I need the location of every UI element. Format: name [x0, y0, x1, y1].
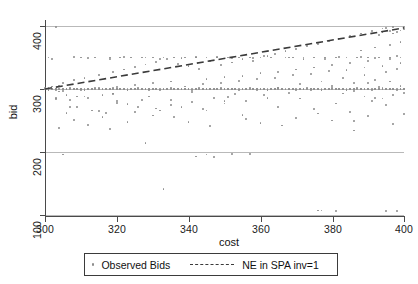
data-point [317, 113, 319, 115]
data-point [313, 88, 315, 90]
data-point [360, 50, 362, 52]
scatter-points-layer [45, 26, 404, 216]
data-point [349, 88, 351, 90]
data-point [360, 88, 362, 90]
data-point [249, 153, 251, 155]
data-point [163, 57, 165, 59]
data-point [105, 88, 107, 90]
data-point [292, 88, 294, 90]
data-point [252, 57, 254, 59]
data-point [335, 57, 337, 59]
data-point [202, 83, 204, 85]
data-point [367, 88, 369, 90]
data-point [317, 43, 319, 45]
data-point [87, 57, 89, 59]
data-point [141, 88, 143, 90]
data-point [73, 88, 75, 90]
data-point [155, 88, 157, 90]
data-point [349, 62, 351, 64]
data-point [227, 57, 229, 59]
data-point [238, 80, 240, 82]
data-point [44, 88, 46, 90]
scatter-plot-figure: 400 300 200 100 300 320 340 360 380 400 … [0, 0, 418, 284]
data-point [62, 90, 64, 92]
x-tick-label-320: 320 [97, 223, 137, 235]
data-point [152, 57, 154, 59]
data-point [274, 88, 276, 90]
data-point [321, 89, 323, 91]
data-point [385, 27, 387, 29]
data-point [116, 102, 118, 104]
data-point [249, 87, 251, 89]
data-point [267, 55, 269, 57]
data-point [321, 81, 323, 83]
data-point [267, 89, 269, 91]
data-point [242, 58, 244, 60]
data-point [392, 123, 394, 125]
data-point [159, 58, 161, 60]
data-point [84, 96, 86, 98]
data-point [252, 60, 254, 62]
data-point [62, 82, 64, 84]
data-point [403, 88, 405, 90]
data-point [374, 88, 376, 90]
data-point [102, 94, 104, 96]
legend-item-observed-bids: Observed Bids [85, 254, 170, 275]
x-tick-360 [261, 217, 262, 222]
data-point [303, 58, 305, 60]
data-point [231, 88, 233, 90]
data-point [364, 74, 366, 76]
data-point [382, 98, 384, 100]
x-tick-380 [333, 217, 334, 222]
data-point [263, 94, 265, 96]
data-point [73, 119, 75, 121]
data-point [109, 88, 111, 90]
data-point [224, 103, 226, 105]
data-point [281, 125, 283, 127]
data-point [342, 93, 344, 95]
y-axis-title: bid [7, 105, 19, 120]
data-point [155, 61, 157, 63]
data-point [73, 56, 75, 58]
data-point [134, 84, 136, 86]
data-point [127, 121, 129, 123]
data-point [48, 87, 50, 89]
data-point [349, 111, 351, 113]
data-point [310, 73, 312, 75]
dashed-line-icon [190, 264, 234, 265]
data-point [55, 97, 57, 99]
data-point [163, 88, 165, 90]
data-point [209, 125, 211, 127]
data-point [76, 88, 78, 90]
data-point [91, 88, 93, 90]
data-point [216, 88, 218, 90]
data-point [364, 96, 366, 98]
data-point [234, 88, 236, 90]
data-point [224, 88, 226, 90]
data-point [51, 58, 53, 60]
data-point [137, 106, 139, 108]
data-point [317, 88, 319, 90]
data-point [292, 74, 294, 76]
data-point [163, 188, 165, 190]
data-point [181, 88, 183, 90]
data-point [295, 117, 297, 119]
data-point [206, 57, 208, 59]
data-point [281, 88, 283, 90]
data-point [313, 67, 315, 69]
data-point [173, 116, 175, 118]
x-tick-400 [404, 217, 405, 222]
data-point [145, 142, 147, 144]
data-point [66, 94, 68, 96]
data-point [274, 77, 276, 79]
data-point [87, 97, 89, 99]
data-point [328, 88, 330, 90]
data-point [152, 115, 154, 117]
data-point [263, 55, 265, 57]
data-point [378, 86, 380, 88]
data-point [98, 74, 100, 76]
data-point [130, 57, 132, 59]
data-point [367, 57, 369, 59]
data-point [102, 88, 104, 90]
data-point [141, 57, 143, 59]
